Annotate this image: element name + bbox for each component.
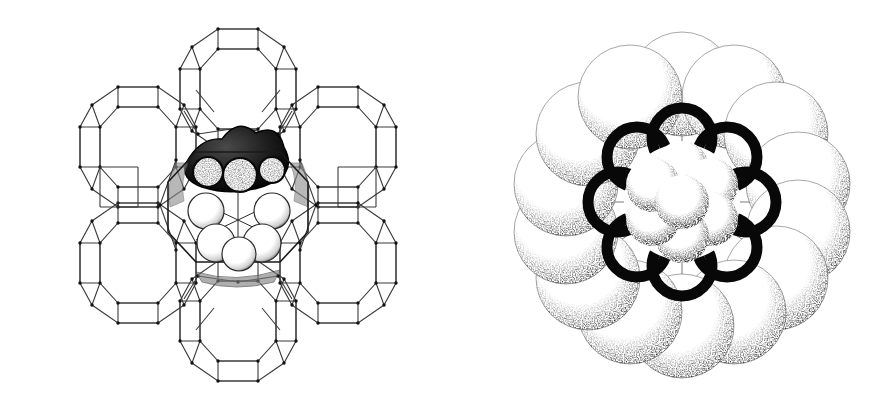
panel-a: A: [0, 0, 446, 411]
panel-a-artwork: [0, 0, 446, 411]
panel-b: B: [446, 0, 892, 411]
inner-sphere-center: [655, 175, 709, 229]
panel-b-artwork: [446, 0, 892, 411]
figure-root: A: [0, 0, 892, 411]
zeolite-framework-svg: [0, 0, 446, 411]
space-filling-model-svg: [446, 0, 892, 411]
